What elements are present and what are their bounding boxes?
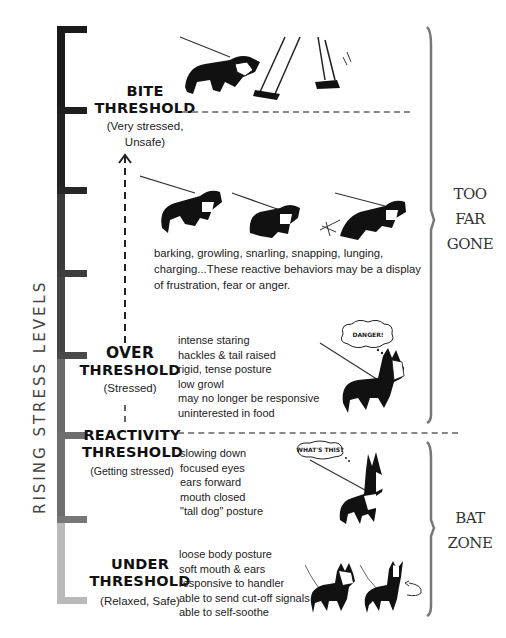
bar-segment-7 bbox=[57, 518, 65, 604]
behavior-item: responsive to handler bbox=[179, 576, 310, 591]
curious-bubble-text: WHAT'S THIS? bbox=[296, 446, 344, 453]
tick-2 bbox=[57, 187, 87, 194]
behavior-item: soft mouth & ears bbox=[179, 562, 310, 577]
behavior-item: able to send cut-off signals bbox=[179, 591, 310, 606]
bar-segment-3 bbox=[57, 190, 65, 274]
level-subtitle: (Stressed) bbox=[70, 380, 190, 396]
bat-zone-brace bbox=[420, 440, 440, 618]
danger-bubble-text: DANGER! bbox=[352, 331, 383, 338]
bar-segment-1 bbox=[57, 27, 65, 112]
behavior-item: ears forward bbox=[180, 475, 263, 490]
tick-3 bbox=[57, 270, 87, 277]
behavior-item: hackles & tail raised bbox=[178, 348, 319, 363]
reactivity-threshold-dashed-line bbox=[178, 432, 458, 434]
bat-zone-label: BAT ZONE bbox=[440, 506, 500, 556]
too-far-gone-label: TOO FAR GONE bbox=[440, 182, 500, 257]
bar-segment-5 bbox=[57, 354, 65, 436]
behavior-item: uninterested in food bbox=[178, 406, 319, 421]
level-subtitle: (Very stressed, Unsafe) bbox=[85, 118, 205, 150]
reacting-dogs-illustration bbox=[140, 168, 420, 248]
behavior-item: low growl bbox=[178, 377, 319, 392]
behavior-item: able to self-soothe bbox=[179, 605, 310, 620]
tick-bite bbox=[57, 107, 87, 114]
level-subtitle: (Getting stressed) bbox=[82, 463, 182, 479]
behavior-item: slowing down bbox=[180, 446, 263, 461]
level-title: OVER THRESHOLD bbox=[70, 345, 190, 379]
bar-segment-4 bbox=[57, 272, 65, 356]
bite-threshold-dashed-line bbox=[182, 111, 410, 113]
behavior-item: rigid, tense posture bbox=[178, 362, 319, 377]
reactivity-threshold-behaviors: slowing down focused eyes ears forward m… bbox=[180, 446, 263, 519]
level-title: REACTIVITY THRESHOLD bbox=[82, 427, 182, 461]
behavior-item: may no longer be responsive bbox=[178, 391, 319, 406]
behavior-item: focused eyes bbox=[180, 461, 263, 476]
behavior-item: "tall dog" posture bbox=[180, 504, 263, 519]
relaxed-dogs-illustration bbox=[305, 555, 430, 615]
danger-dog-illustration: DANGER! bbox=[318, 318, 418, 428]
tick-5 bbox=[57, 516, 87, 523]
too-far-gone-brace bbox=[420, 25, 440, 425]
under-threshold-behaviors: loose body posture soft mouth & ears res… bbox=[179, 547, 310, 620]
bar-segment-6 bbox=[57, 434, 65, 520]
curious-dog-illustration: WHAT'S THIS? bbox=[290, 440, 400, 525]
bar-segment-2 bbox=[57, 110, 65, 192]
dog-biting-illustration bbox=[175, 32, 355, 102]
behavior-item: loose body posture bbox=[179, 547, 310, 562]
tick-under bbox=[57, 597, 87, 604]
tick-top bbox=[57, 26, 87, 33]
behavior-item: intense staring bbox=[178, 333, 319, 348]
behavior-item: mouth closed bbox=[180, 490, 263, 505]
reactive-behaviors-description: barking, growling, snarling, snapping, l… bbox=[154, 245, 421, 293]
rising-stress-levels-label: RISING STRESS LEVELS bbox=[31, 294, 49, 514]
over-threshold-behaviors: intense staring hackles & tail raised ri… bbox=[178, 333, 319, 420]
